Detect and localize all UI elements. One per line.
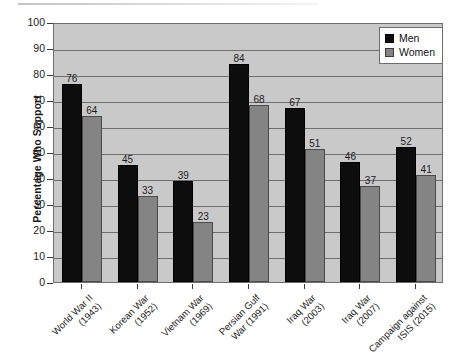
- legend-item-men: Men: [385, 31, 435, 45]
- bar-women-2: 23: [193, 222, 213, 282]
- y-tick-label: 50: [1, 146, 45, 158]
- bar-value-label: 41: [421, 164, 432, 175]
- y-tick-label: 10: [1, 250, 45, 262]
- bar-value-label: 45: [122, 154, 133, 165]
- x-tick-mark: [415, 284, 416, 289]
- bar-men-1: 45: [118, 165, 138, 282]
- men-swatch: [385, 34, 394, 43]
- bar-men-2: 39: [173, 181, 193, 282]
- x-tick-mark: [192, 284, 193, 289]
- women-swatch: [385, 48, 394, 57]
- bar-women-3: 68: [249, 105, 269, 282]
- bar-men-6: 52: [396, 147, 416, 282]
- bar-value-label: 23: [198, 211, 209, 222]
- y-tick-label: 20: [1, 224, 45, 236]
- legend-label: Women: [399, 46, 435, 58]
- bar-women-0: 64: [82, 116, 102, 282]
- bar-men-3: 84: [229, 64, 249, 282]
- y-tick-mark: [47, 283, 53, 284]
- bar-value-label: 37: [365, 175, 376, 186]
- bar-value-label: 51: [309, 138, 320, 149]
- legend-item-women: Women: [385, 45, 435, 59]
- bar-value-label: 52: [401, 136, 412, 147]
- bar-men-5: 46: [340, 162, 360, 282]
- bar-women-4: 51: [305, 149, 325, 282]
- bar-value-label: 39: [178, 170, 189, 181]
- y-tick-label: 80: [1, 68, 45, 80]
- legend-label: Men: [399, 32, 419, 44]
- x-tick-mark: [304, 284, 305, 289]
- bar-value-label: 46: [345, 151, 356, 162]
- y-tick-label: 90: [1, 42, 45, 54]
- y-tick-label: 70: [1, 94, 45, 106]
- chart-legend: MenWomen: [379, 27, 443, 64]
- x-tick-mark: [359, 284, 360, 289]
- y-tick-label: 60: [1, 120, 45, 132]
- x-tick-mark: [137, 284, 138, 289]
- bar-women-1: 33: [138, 196, 158, 282]
- scan-artifact-bottom: [150, 357, 340, 363]
- bar-value-label: 67: [289, 97, 300, 108]
- y-tick-label: 0: [1, 276, 45, 288]
- bar-value-label: 33: [142, 185, 153, 196]
- grouped-bar-chart: Percentage Who Support 10090807060504030…: [0, 0, 464, 363]
- bar-value-label: 64: [86, 105, 97, 116]
- bar-value-label: 84: [233, 53, 244, 64]
- y-tick-label: 100: [1, 16, 45, 28]
- bar-men-0: 76: [62, 84, 82, 282]
- x-tick-mark: [81, 284, 82, 289]
- bar-value-label: 68: [253, 94, 264, 105]
- bar-women-6: 41: [416, 175, 436, 282]
- bar-men-4: 67: [285, 108, 305, 282]
- x-tick-mark: [248, 284, 249, 289]
- bar-value-label: 76: [66, 73, 77, 84]
- y-tick-label: 30: [1, 198, 45, 210]
- bar-women-5: 37: [360, 186, 380, 282]
- y-tick-label: 40: [1, 172, 45, 184]
